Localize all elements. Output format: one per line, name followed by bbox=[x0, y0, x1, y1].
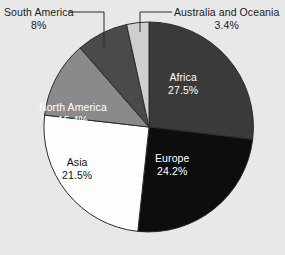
pie-slice-africa[interactable] bbox=[149, 22, 253, 139]
pie-label-south-america-value: 8% bbox=[4, 19, 74, 32]
pie-label-south-america: South America 8% bbox=[4, 6, 74, 31]
pie-label-north-america: North America 15.4% bbox=[39, 101, 107, 126]
pie-label-north-america-name: North America bbox=[39, 101, 107, 114]
pie-chart-graphic bbox=[0, 0, 285, 255]
pie-label-europe: Europe 24.2% bbox=[155, 152, 189, 177]
pie-label-asia-value: 21.5% bbox=[62, 169, 92, 182]
pie-label-europe-name: Europe bbox=[155, 152, 189, 165]
pie-label-africa-value: 27.5% bbox=[168, 84, 198, 97]
pie-label-australia-and-oceania: Australia and Oceania 3.4% bbox=[174, 6, 279, 31]
pie-label-asia: Asia 21.5% bbox=[62, 156, 92, 181]
pie-label-europe-value: 24.2% bbox=[155, 165, 189, 178]
pie-label-south-america-name: South America bbox=[4, 6, 74, 19]
pie-chart: South America 8% Australia and Oceania 3… bbox=[0, 0, 285, 255]
pie-label-asia-name: Asia bbox=[62, 156, 92, 169]
pie-label-north-america-value: 15.4% bbox=[39, 114, 107, 127]
pie-label-africa: Africa 27.5% bbox=[168, 71, 198, 96]
pie-label-australia-and-oceania-value: 3.4% bbox=[174, 19, 279, 32]
pie-slice-asia[interactable] bbox=[44, 115, 149, 231]
pie-label-africa-name: Africa bbox=[168, 71, 198, 84]
pie-slice-europe[interactable] bbox=[138, 127, 253, 232]
pie-label-australia-and-oceania-name: Australia and Oceania bbox=[174, 6, 279, 19]
